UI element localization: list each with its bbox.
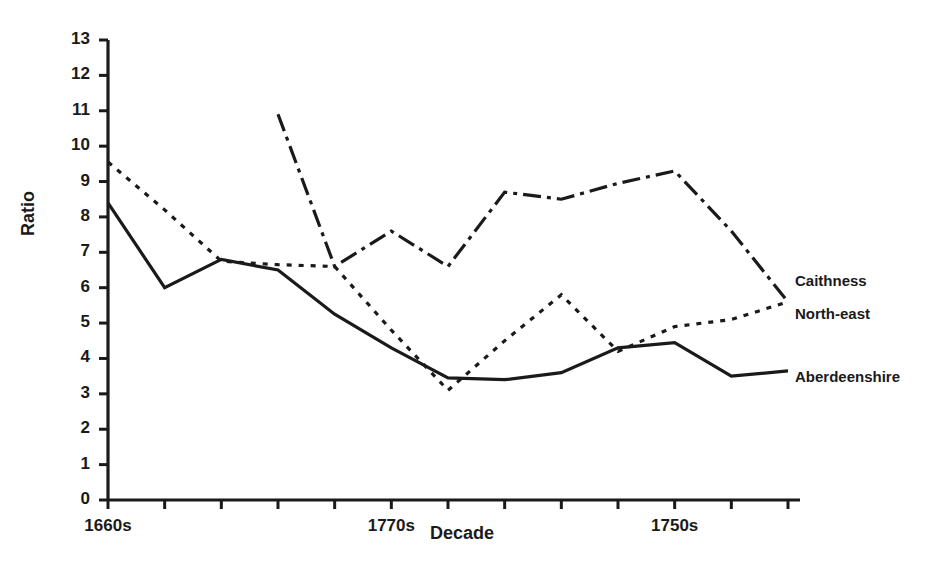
series-label-north-east: North-east xyxy=(795,305,870,322)
plot-area xyxy=(0,0,934,583)
y-tick-label: 10 xyxy=(40,135,90,155)
y-tick-label: 4 xyxy=(40,347,90,367)
y-tick-label: 11 xyxy=(40,100,90,120)
y-tick-label: 9 xyxy=(40,171,90,191)
y-tick-label: 3 xyxy=(40,383,90,403)
series-lines xyxy=(108,114,788,390)
y-tick-label: 12 xyxy=(40,64,90,84)
y-axis-title: Ratio xyxy=(18,191,39,236)
series-line-caithness xyxy=(278,114,788,302)
y-tick-label: 2 xyxy=(40,418,90,438)
y-tick-label: 5 xyxy=(40,312,90,332)
series-label-caithness: Caithness xyxy=(795,272,867,289)
x-tick-label: 1660s xyxy=(58,516,158,536)
y-tick-label: 6 xyxy=(40,277,90,297)
y-tick-label: 8 xyxy=(40,206,90,226)
axis-lines xyxy=(99,40,800,509)
x-axis-title: Decade xyxy=(430,523,494,544)
line-chart: 131211109876543210 1660s1770s1750s Caith… xyxy=(0,0,934,583)
series-label-aberdeenshire: Aberdeenshire xyxy=(795,368,900,385)
y-tick-label: 13 xyxy=(40,29,90,49)
y-tick-label: 1 xyxy=(40,454,90,474)
y-tick-label: 7 xyxy=(40,241,90,261)
x-tick-label: 1770s xyxy=(341,516,441,536)
series-line-north-east xyxy=(108,162,788,390)
x-tick-label: 1750s xyxy=(625,516,725,536)
series-line-aberdeenshire xyxy=(108,203,788,380)
y-tick-label: 0 xyxy=(40,489,90,509)
